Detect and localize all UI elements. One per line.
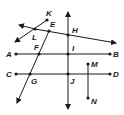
label-f: F <box>34 43 40 52</box>
point-e <box>47 29 50 32</box>
label-i: I <box>72 44 75 53</box>
point-b <box>108 52 111 55</box>
label-g: G <box>31 77 37 86</box>
point-m <box>86 62 89 65</box>
label-m: M <box>91 60 98 69</box>
label-n: N <box>91 97 97 106</box>
label-e: E <box>50 20 56 29</box>
label-j: J <box>70 77 75 86</box>
point-g <box>28 72 31 75</box>
label-l: L <box>32 33 37 42</box>
point-h <box>66 33 69 36</box>
label-d: D <box>113 70 119 79</box>
geometry-diagram: A B C D E F G H I J K L M N <box>0 0 124 115</box>
point-j <box>66 72 69 75</box>
label-h: H <box>72 26 78 35</box>
point-k <box>45 18 48 21</box>
ray-kl <box>15 20 47 42</box>
point-d <box>108 72 111 75</box>
label-b: B <box>113 50 119 59</box>
point-f <box>37 52 40 55</box>
point-n <box>86 96 89 99</box>
label-c: C <box>6 70 12 79</box>
line-leh <box>19 25 35 29</box>
label-k: K <box>46 9 53 18</box>
point-c <box>14 72 17 75</box>
point-l <box>33 27 36 30</box>
label-a: A <box>5 50 12 59</box>
point-a <box>14 52 17 55</box>
point-i <box>66 52 69 55</box>
